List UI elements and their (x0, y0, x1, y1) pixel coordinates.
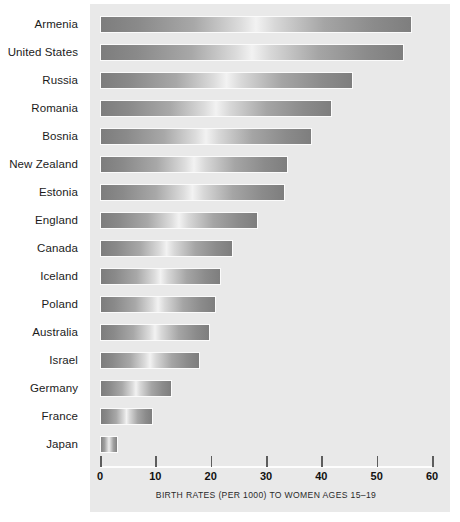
bar-track (100, 324, 450, 341)
bar-category-label: England (0, 206, 78, 234)
bar-category-label: Poland (0, 290, 78, 318)
x-axis: 0102030405060 BIRTH RATES (PER 1000) TO … (0, 452, 460, 522)
bar-category-label: Canada (0, 234, 78, 262)
bar-track (100, 296, 450, 313)
axis-tick-mark (432, 456, 434, 467)
bar-track (100, 436, 450, 453)
bar-track (100, 72, 450, 89)
bar (100, 212, 258, 229)
bar-row: Canada (0, 234, 460, 262)
bar-track (100, 16, 450, 33)
axis-tick-mark (155, 456, 157, 467)
x-axis-label: BIRTH RATES (PER 1000) TO WOMEN AGES 15–… (100, 490, 432, 500)
birth-rates-bar-chart: ArmeniaUnited StatesRussiaRomaniaBosniaN… (0, 0, 460, 522)
bar-category-label: Israel (0, 346, 78, 374)
bar (100, 296, 216, 313)
bar-track (100, 268, 450, 285)
axis-tick-mark (266, 456, 268, 467)
bar-row: Australia (0, 318, 460, 346)
axis-tick-label: 10 (135, 470, 175, 482)
bar-category-label: Romania (0, 94, 78, 122)
bar-category-label: Australia (0, 318, 78, 346)
axis-tick-label: 40 (301, 470, 341, 482)
axis-tick-mark (321, 456, 323, 467)
bar-row: Russia (0, 66, 460, 94)
bar (100, 352, 200, 369)
bar-track (100, 408, 450, 425)
bar-row: New Zealand (0, 150, 460, 178)
bar-row: Israel (0, 346, 460, 374)
bar-category-label: New Zealand (0, 150, 78, 178)
bar (100, 408, 153, 425)
bar-row: United States (0, 38, 460, 66)
bar (100, 240, 233, 257)
bar-rows-container: ArmeniaUnited StatesRussiaRomaniaBosniaN… (0, 0, 460, 448)
bar-track (100, 380, 450, 397)
bar (100, 16, 412, 33)
bar-track (100, 128, 450, 145)
bar-category-label: France (0, 402, 78, 430)
bar-category-label: Russia (0, 66, 78, 94)
bar-track (100, 44, 450, 61)
bar-track (100, 100, 450, 117)
bar-category-label: Estonia (0, 178, 78, 206)
bar-row: Bosnia (0, 122, 460, 150)
bar-row: England (0, 206, 460, 234)
bar-category-label: Iceland (0, 262, 78, 290)
bar-category-label: Germany (0, 374, 78, 402)
bar-track (100, 156, 450, 173)
bar-row: Germany (0, 374, 460, 402)
bar-category-label: United States (0, 38, 78, 66)
bar-track (100, 212, 450, 229)
bar (100, 184, 285, 201)
axis-tick-label: 20 (191, 470, 231, 482)
bar-track (100, 352, 450, 369)
bar-row: France (0, 402, 460, 430)
axis-tick-mark (100, 456, 102, 467)
bar (100, 324, 210, 341)
axis-tick-label: 50 (357, 470, 397, 482)
bar (100, 100, 332, 117)
bar (100, 380, 172, 397)
bar-track (100, 184, 450, 201)
bar-track (100, 240, 450, 257)
bar (100, 268, 221, 285)
bar (100, 44, 404, 61)
bar-row: Romania (0, 94, 460, 122)
bar-row: Armenia (0, 10, 460, 38)
axis-tick-mark (377, 456, 379, 467)
bar (100, 128, 312, 145)
bar-category-label: Bosnia (0, 122, 78, 150)
bar (100, 436, 118, 453)
bar-row: Estonia (0, 178, 460, 206)
axis-tick-label: 0 (80, 470, 120, 482)
bar-row: Iceland (0, 262, 460, 290)
axis-tick-label: 60 (412, 470, 452, 482)
bar (100, 156, 288, 173)
bar-category-label: Armenia (0, 10, 78, 38)
axis-tick-label: 30 (246, 470, 286, 482)
bar (100, 72, 353, 89)
axis-tick-mark (211, 456, 213, 467)
bar-row: Poland (0, 290, 460, 318)
